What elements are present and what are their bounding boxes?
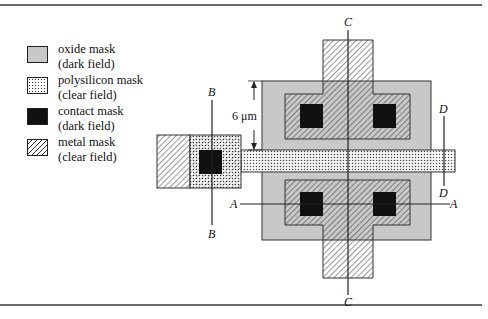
label-a-right: A (449, 197, 458, 211)
label-a-left: A (229, 197, 238, 211)
arrow-up-icon (251, 81, 257, 88)
label-c-bottom: C (344, 295, 353, 309)
contact-left-pad (199, 150, 222, 174)
arrow-down-icon (251, 143, 257, 150)
label-b-bottom: B (208, 227, 216, 241)
dimension-label: 6 μm (232, 109, 257, 123)
label-d-top: D (438, 102, 448, 116)
contact-top-right (373, 104, 396, 128)
mask-layout-diagram: 6 μm C C B B A A D D (0, 0, 488, 319)
contact-top-left (300, 104, 323, 128)
label-b-top: B (208, 85, 216, 99)
label-c-top: C (344, 15, 353, 29)
left-pad-metal (157, 135, 190, 188)
label-d-bottom: D (438, 186, 448, 200)
